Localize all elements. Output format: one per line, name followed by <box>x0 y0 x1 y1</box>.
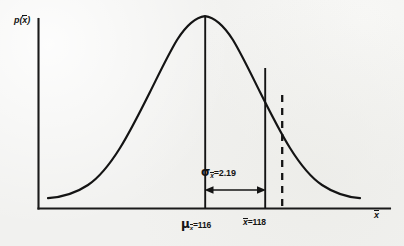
sigma-symbol: σ <box>201 165 210 179</box>
figure-root: p(x) x μx=116 x=118 σx=2.19 <box>0 0 404 246</box>
y-axis-label: p(x) <box>14 16 30 25</box>
mu-symbol: μ <box>181 217 190 231</box>
distribution-plot <box>0 0 404 246</box>
y-axis-label-variable: x <box>22 16 27 25</box>
mu-subscript: x <box>190 225 193 231</box>
mean-value: 116 <box>198 220 211 230</box>
x-axis-label: x <box>374 211 379 220</box>
sample-mean-tick-label: x=118 <box>243 218 266 227</box>
sigma-value: 2.19 <box>219 168 236 178</box>
x-axis-label-variable: x <box>374 211 379 220</box>
sigma-subscript: x <box>210 173 213 179</box>
mean-tick-label: μx=116 <box>181 218 211 231</box>
y-axis-label-close: ) <box>27 15 30 25</box>
std-error-annotation: σx=2.19 <box>201 166 236 179</box>
xbar-value: 118 <box>253 217 266 227</box>
xbar-symbol: x <box>243 218 248 227</box>
